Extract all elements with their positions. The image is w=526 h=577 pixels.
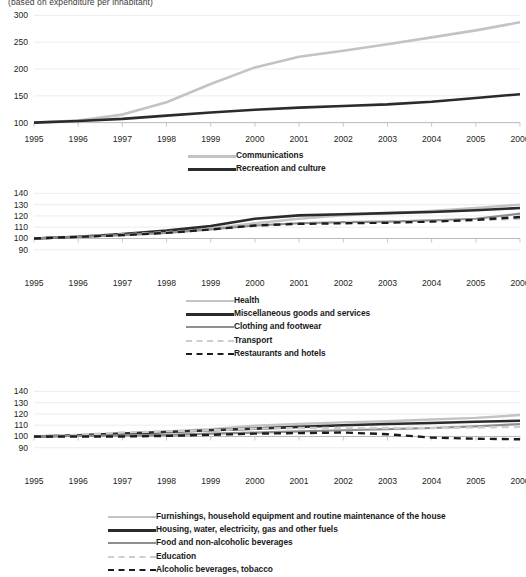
x-tick-label: 1999 bbox=[201, 278, 220, 288]
legend-item: Food and non-alcoholic beverages bbox=[108, 536, 526, 549]
x-tick-label: 2005 bbox=[466, 476, 485, 486]
x-tick-label: 2000 bbox=[245, 278, 264, 288]
x-tick-label: 1997 bbox=[113, 278, 132, 288]
legend-item: Alcoholic beverages, tobacco bbox=[108, 563, 526, 576]
figure-page: (based on expenditure per inhabitant) 10… bbox=[0, 0, 526, 577]
panel-bottom-legend: Furnishings, household equipment and rou… bbox=[0, 509, 526, 576]
y-tick-label: 90 bbox=[18, 443, 28, 453]
chart-panel-health: 9010011012013014019951996199719981999200… bbox=[0, 180, 526, 380]
legend-item: Restaurants and hotels bbox=[186, 347, 526, 360]
legend-swatch-icon bbox=[186, 334, 234, 346]
legend-label: Education bbox=[156, 551, 196, 561]
legend-label: Transport bbox=[234, 335, 272, 345]
x-tick-label: 2006 bbox=[510, 134, 526, 144]
legend-item: Miscellaneous goods and services bbox=[186, 306, 526, 319]
y-tick-label: 110 bbox=[14, 222, 28, 232]
x-tick-label: 1995 bbox=[24, 476, 43, 486]
y-tick-label: 140 bbox=[14, 386, 29, 396]
x-tick-label: 2002 bbox=[334, 278, 353, 288]
legend-swatch-icon bbox=[108, 550, 156, 562]
y-tick-label: 120 bbox=[14, 409, 29, 419]
y-tick-label: 90 bbox=[18, 245, 28, 255]
x-tick-label: 2005 bbox=[466, 134, 485, 144]
x-tick-label: 1999 bbox=[201, 476, 220, 486]
x-tick-label: 1996 bbox=[69, 476, 88, 486]
x-tick-label: 2004 bbox=[422, 476, 441, 486]
x-tick-label: 2004 bbox=[422, 278, 441, 288]
x-tick-label: 1998 bbox=[157, 278, 176, 288]
x-tick-label: 2001 bbox=[290, 476, 309, 486]
x-tick-label: 2003 bbox=[378, 476, 397, 486]
y-tick-label: 200 bbox=[14, 64, 29, 74]
legend-item: Housing, water, electricity, gas and oth… bbox=[108, 522, 526, 535]
legend-label: Food and non-alcoholic beverages bbox=[156, 537, 293, 547]
x-tick-label: 1998 bbox=[157, 476, 176, 486]
y-tick-label: 100 bbox=[14, 233, 29, 243]
legend-swatch-icon bbox=[188, 162, 236, 174]
x-tick-label: 1997 bbox=[113, 476, 132, 486]
legend-item: Communications bbox=[188, 148, 526, 161]
legend-label: Communications bbox=[236, 150, 303, 160]
x-tick-label: 1998 bbox=[157, 134, 176, 144]
legend-swatch-icon bbox=[186, 294, 234, 306]
chart-panel-housing: 9010011012013014019951996199719981999200… bbox=[0, 380, 526, 577]
y-tick-label: 110 bbox=[14, 420, 28, 430]
x-tick-label: 1996 bbox=[69, 278, 88, 288]
x-tick-label: 2003 bbox=[378, 134, 397, 144]
y-tick-label: 120 bbox=[14, 211, 29, 221]
legend-swatch-icon bbox=[186, 307, 234, 319]
chart-panel-communications: 1001502002503001995199619971998199920002… bbox=[0, 0, 526, 180]
y-tick-label: 150 bbox=[14, 91, 29, 101]
y-tick-label: 130 bbox=[14, 398, 29, 408]
y-tick-label: 250 bbox=[14, 37, 29, 47]
x-tick-label: 1997 bbox=[113, 134, 132, 144]
legend-swatch-icon bbox=[188, 149, 236, 161]
x-tick-label: 2006 bbox=[510, 476, 526, 486]
legend-item: Furnishings, household equipment and rou… bbox=[108, 509, 526, 522]
x-tick-label: 2001 bbox=[290, 278, 309, 288]
x-tick-label: 2001 bbox=[290, 134, 309, 144]
x-tick-label: 2003 bbox=[378, 278, 397, 288]
legend-swatch-icon bbox=[108, 523, 156, 535]
legend-item: Transport bbox=[186, 333, 526, 346]
x-tick-label: 2005 bbox=[466, 278, 485, 288]
legend-swatch-icon bbox=[186, 320, 234, 332]
x-tick-label: 1995 bbox=[24, 278, 43, 288]
x-tick-label: 1999 bbox=[201, 134, 220, 144]
legend-label: Housing, water, electricity, gas and oth… bbox=[156, 524, 338, 534]
legend-item: Education bbox=[108, 549, 526, 562]
legend-item: Clothing and footwear bbox=[186, 320, 526, 333]
x-tick-label: 2002 bbox=[334, 476, 353, 486]
legend-label: Recreation and culture bbox=[236, 163, 326, 173]
x-tick-label: 1996 bbox=[69, 134, 88, 144]
legend-item: Health bbox=[186, 293, 526, 306]
x-tick-label: 2000 bbox=[245, 476, 264, 486]
y-tick-label: 140 bbox=[14, 188, 29, 198]
legend-label: Alcoholic beverages, tobacco bbox=[156, 564, 273, 574]
y-tick-label: 100 bbox=[14, 118, 29, 128]
legend-swatch-icon bbox=[108, 563, 156, 575]
legend-swatch-icon bbox=[108, 536, 156, 548]
legend-label: Clothing and footwear bbox=[234, 321, 321, 331]
x-tick-label: 2000 bbox=[245, 134, 264, 144]
legend-label: Miscellaneous goods and services bbox=[234, 308, 370, 318]
y-tick-label: 100 bbox=[14, 431, 29, 441]
legend-label: Furnishings, household equipment and rou… bbox=[156, 511, 446, 521]
y-tick-label: 130 bbox=[14, 200, 29, 210]
x-tick-label: 2002 bbox=[334, 134, 353, 144]
series-line bbox=[34, 94, 520, 122]
legend-label: Health bbox=[234, 295, 259, 305]
legend-label: Restaurants and hotels bbox=[234, 348, 326, 358]
legend-swatch-icon bbox=[186, 347, 234, 359]
panel-top-legend: CommunicationsRecreation and culture bbox=[0, 148, 526, 175]
x-tick-label: 2004 bbox=[422, 134, 441, 144]
legend-item: Recreation and culture bbox=[188, 161, 526, 174]
y-tick-label: 300 bbox=[14, 10, 29, 20]
x-tick-label: 1995 bbox=[24, 134, 43, 144]
panel-middle-legend: HealthMiscellaneous goods and servicesCl… bbox=[0, 293, 526, 360]
x-tick-label: 2006 bbox=[510, 278, 526, 288]
legend-swatch-icon bbox=[108, 510, 156, 522]
